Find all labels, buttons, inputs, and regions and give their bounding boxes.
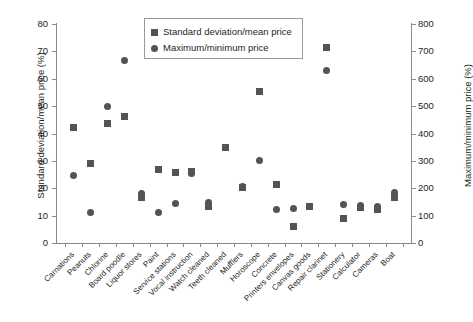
- x-tick: [251, 244, 252, 247]
- data-point-circle: [323, 67, 330, 74]
- y-tick-right: [412, 24, 416, 25]
- data-point-circle: [87, 209, 94, 216]
- data-point-square: [306, 203, 313, 210]
- y-tick-label-left: 40: [24, 129, 48, 139]
- y-tick-left: [52, 24, 56, 25]
- legend-entry-standard-deviation: Standard deviation/mean price: [151, 24, 296, 40]
- y-tick-label-right: 200: [418, 183, 444, 193]
- data-point-square: [323, 44, 330, 51]
- data-point-square: [374, 206, 381, 213]
- data-point-circle: [306, 203, 313, 210]
- y-tick-label-left: 10: [24, 211, 48, 221]
- x-tick: [352, 244, 353, 247]
- y-tick-right: [412, 188, 416, 189]
- y-tick-left: [52, 106, 56, 107]
- y-tick-label-right: 800: [418, 19, 444, 29]
- y-tick-right: [412, 216, 416, 217]
- x-tick: [82, 244, 83, 247]
- data-point-circle: [374, 203, 381, 210]
- y-tick-label-right: 300: [418, 156, 444, 166]
- y-tick-left: [52, 79, 56, 80]
- y-tick-label-left: 50: [24, 101, 48, 111]
- data-point-square: [391, 194, 398, 201]
- x-tick: [386, 244, 387, 247]
- y-tick-label-left: 70: [24, 46, 48, 56]
- data-point-circle: [155, 209, 162, 216]
- data-point-square: [239, 184, 246, 191]
- data-point-square: [222, 144, 229, 151]
- x-tick: [133, 244, 134, 247]
- x-tick: [116, 244, 117, 247]
- y-tick-label-right: 0: [418, 238, 444, 248]
- y-tick-left: [52, 243, 56, 244]
- data-point-square: [205, 203, 212, 210]
- y-tick-right: [412, 106, 416, 107]
- x-tick: [335, 244, 336, 247]
- data-point-circle: [391, 189, 398, 196]
- y-tick-label-left: 30: [24, 156, 48, 166]
- y-tick-label-left: 0: [24, 238, 48, 248]
- x-tick: [403, 244, 404, 247]
- y-tick-label-right: 500: [418, 101, 444, 111]
- y-tick-right: [412, 79, 416, 80]
- x-tick: [301, 244, 302, 247]
- y-tick-left: [52, 216, 56, 217]
- x-tick: [268, 244, 269, 247]
- data-point-circle: [239, 183, 246, 190]
- y-axis-left-line: [56, 23, 57, 244]
- circle-marker-icon: [151, 45, 158, 52]
- y-tick-left: [52, 51, 56, 52]
- data-point-circle: [138, 190, 145, 197]
- data-point-circle: [205, 199, 212, 206]
- y-tick-right: [412, 51, 416, 52]
- y-tick-label-right: 400: [418, 129, 444, 139]
- y-tick-right: [412, 243, 416, 244]
- data-point-square: [172, 169, 179, 176]
- y-tick-label-right: 700: [418, 46, 444, 56]
- chart-legend: Standard deviation/mean price Maximum/mi…: [144, 18, 303, 59]
- y-tick-right: [412, 134, 416, 135]
- data-point-circle: [188, 170, 195, 177]
- y-tick-label-left: 60: [24, 74, 48, 84]
- data-point-circle: [256, 157, 263, 164]
- data-point-square: [340, 215, 347, 222]
- x-axis-label-text: Boat: [378, 250, 396, 268]
- x-tick: [150, 244, 151, 247]
- data-point-circle: [273, 206, 280, 213]
- data-point-circle: [104, 103, 111, 110]
- data-point-square: [104, 120, 111, 127]
- x-tick: [285, 244, 286, 247]
- data-point-circle: [340, 201, 347, 208]
- data-point-square: [121, 113, 128, 120]
- data-point-square: [138, 194, 145, 201]
- y-tick-left: [52, 188, 56, 189]
- legend-label: Standard deviation/mean price: [163, 27, 292, 37]
- data-point-square: [273, 181, 280, 188]
- x-tick: [369, 244, 370, 247]
- y-tick-label-left: 20: [24, 183, 48, 193]
- data-point-square: [357, 204, 364, 211]
- data-point-circle: [357, 202, 364, 209]
- data-point-circle: [70, 172, 77, 179]
- y-tick-left: [52, 134, 56, 135]
- y-tick-right: [412, 161, 416, 162]
- y-tick-label-right: 600: [418, 74, 444, 84]
- y-tick-left: [52, 161, 56, 162]
- x-tick: [99, 244, 100, 247]
- data-point-square: [188, 168, 195, 175]
- square-marker-icon: [151, 29, 158, 36]
- data-point-circle: [121, 57, 128, 64]
- x-tick: [217, 244, 218, 247]
- data-point-square: [290, 223, 297, 230]
- x-tick: [65, 244, 66, 247]
- data-point-circle: [222, 144, 229, 151]
- data-point-square: [256, 88, 263, 95]
- data-point-square: [155, 166, 162, 173]
- x-tick: [183, 244, 184, 247]
- data-point-square: [70, 124, 77, 131]
- x-tick: [234, 244, 235, 247]
- data-point-square: [87, 160, 94, 167]
- x-tick: [167, 244, 168, 247]
- y-tick-label-left: 80: [24, 19, 48, 29]
